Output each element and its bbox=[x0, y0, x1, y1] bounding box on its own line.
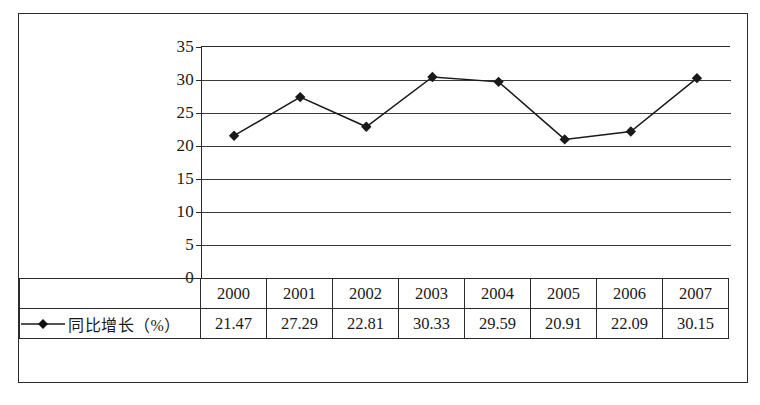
legend-label: 同比增长（%） bbox=[68, 312, 181, 336]
table-value-2002: 22.81 bbox=[333, 309, 399, 339]
table-header-2004: 2004 bbox=[465, 279, 531, 309]
line-diamond-marker-icon bbox=[20, 317, 66, 331]
y-axis-tick-label-5: 5 bbox=[150, 236, 194, 253]
table-header-2000: 2000 bbox=[201, 279, 267, 309]
table-value-2000: 21.47 bbox=[201, 309, 267, 339]
table-value-2007: 30.15 bbox=[663, 309, 729, 339]
y-axis-tick-label-35: 35 bbox=[150, 38, 194, 55]
table-data-row: 同比增长（%） 21.47 27.29 22.81 30.33 29.59 20… bbox=[20, 309, 729, 339]
series-markers bbox=[229, 72, 702, 145]
y-axis-labels: 35 30 25 20 15 10 5 0 bbox=[148, 46, 194, 278]
y-axis-tick-label-10: 10 bbox=[150, 203, 194, 220]
data-point-2000 bbox=[229, 130, 239, 140]
y-axis-tick-label-30: 30 bbox=[150, 71, 194, 88]
table-header-row: 2000 2001 2002 2003 2004 2005 2006 2007 bbox=[20, 279, 729, 309]
chart-figure: 35 30 25 20 15 10 5 0 2000 2001 bbox=[0, 0, 760, 405]
table-value-2004: 29.59 bbox=[465, 309, 531, 339]
table-header-2006: 2006 bbox=[597, 279, 663, 309]
y-axis-tick-label-20: 20 bbox=[150, 137, 194, 154]
table-value-2003: 30.33 bbox=[399, 309, 465, 339]
table-value-2006: 22.09 bbox=[597, 309, 663, 339]
data-point-2001 bbox=[295, 92, 305, 102]
y-axis-tick-label-25: 25 bbox=[150, 104, 194, 121]
table-header-2005: 2005 bbox=[531, 279, 597, 309]
data-series-layer bbox=[201, 46, 730, 278]
table-corner-cell bbox=[20, 279, 201, 309]
table-header-2001: 2001 bbox=[267, 279, 333, 309]
table-header-2007: 2007 bbox=[663, 279, 729, 309]
table-header-2002: 2002 bbox=[333, 279, 399, 309]
table-value-2005: 20.91 bbox=[531, 309, 597, 339]
y-axis-tick-label-15: 15 bbox=[150, 170, 194, 187]
table-header-2003: 2003 bbox=[399, 279, 465, 309]
legend-cell: 同比增长（%） bbox=[20, 309, 201, 339]
table-value-2001: 27.29 bbox=[267, 309, 333, 339]
data-table: 2000 2001 2002 2003 2004 2005 2006 2007 … bbox=[19, 278, 729, 339]
